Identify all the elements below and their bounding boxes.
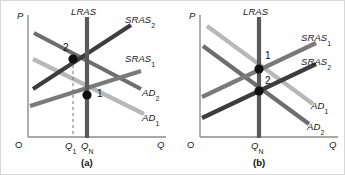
curve-label-ad2-a-sub: 2 [155, 95, 159, 102]
equilibrium-point-2-b [254, 86, 263, 95]
curve-label-sras1-b: SRAS1 [301, 33, 331, 43]
curve-label-lras-b: LRAS [243, 7, 268, 17]
x-tick-qn-a-sub: N [89, 148, 94, 155]
x-tick-q1-a-sub: 1 [73, 148, 77, 155]
x-tick-qn-b: QN [251, 141, 264, 151]
curve-label-sras2-b-sub: 2 [327, 64, 331, 71]
panel-a: P Q O LRAS SRAS2 SRAS1 AD2 AD1 2 1 Q1 QN… [1, 1, 173, 175]
point-label-2-b: 2 [265, 76, 271, 86]
y-axis-label-b: P [189, 11, 195, 21]
equilibrium-point-2-a [68, 54, 77, 63]
curve-label-ad1-a: AD1 [142, 113, 159, 123]
curve-label-sras2-a: SRAS2 [125, 15, 155, 25]
x-tick-q1-a: Q1 [65, 141, 77, 151]
curve-label-sras2-a-sub: 2 [151, 22, 155, 29]
curve-label-sras2-b: SRAS2 [301, 57, 331, 67]
curve-label-ad1-a-sub: 1 [155, 120, 159, 127]
curve-label-ad2-a-text: AD [142, 87, 155, 98]
point-label-1-a: 1 [97, 89, 103, 99]
equilibrium-point-1-b [254, 64, 263, 73]
equilibrium-point-1-a [82, 90, 91, 99]
figure-container: P Q O LRAS SRAS2 SRAS1 AD2 AD1 2 1 Q1 QN… [0, 0, 345, 175]
curve-label-sras1-b-sub: 1 [327, 40, 331, 47]
curve-label-sras2-a-text: SRAS [125, 14, 151, 25]
curve-label-sras2-b-text: SRAS [301, 56, 327, 67]
curve-label-sras1-a-sub: 1 [151, 61, 155, 68]
curve-label-ad2-b-sub: 2 [320, 129, 324, 136]
curve-label-sras1-a-text: SRAS [125, 53, 151, 64]
x-axis-label-a: Q [157, 140, 164, 150]
panel-b: P Q O LRAS SRAS1 SRAS2 AD1 AD2 1 2 QN (b… [173, 1, 345, 175]
curve-label-ad2-b: AD2 [307, 122, 324, 132]
curve-label-sras1-b-text: SRAS [301, 32, 327, 43]
curve-label-lras-a: LRAS [71, 7, 96, 17]
caption-b: (b) [253, 158, 265, 168]
x-axis-label-b: Q [329, 140, 336, 150]
curve-label-ad1-b-sub: 1 [324, 108, 328, 115]
x-tick-q1-a-text: Q [65, 140, 73, 151]
x-tick-qn-a-text: Q [81, 140, 89, 151]
curve-label-ad1-b-text: AD [311, 100, 324, 111]
curve-label-ad1-b: AD1 [311, 101, 328, 111]
point-label-1-b: 1 [265, 51, 271, 61]
origin-label-a: O [15, 140, 23, 150]
x-tick-qn-b-text: Q [251, 140, 259, 151]
x-tick-qn-b-sub: N [259, 148, 264, 155]
origin-label-b: O [187, 140, 195, 150]
curve-label-sras1-a: SRAS1 [125, 54, 155, 64]
curve-label-ad2-b-text: AD [307, 121, 320, 132]
y-axis-label-a: P [17, 11, 23, 21]
caption-a: (a) [81, 158, 93, 168]
point-label-2-a: 2 [63, 43, 69, 53]
x-tick-qn-a: QN [81, 141, 94, 151]
curve-label-ad1-a-text: AD [142, 112, 155, 123]
curve-label-ad2-a: AD2 [142, 88, 159, 98]
